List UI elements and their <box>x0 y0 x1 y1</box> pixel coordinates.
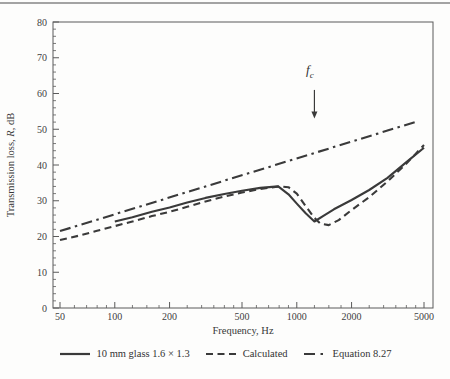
svg-text:60: 60 <box>37 88 47 99</box>
svg-text:500: 500 <box>235 311 250 322</box>
solid-line-swatch-icon <box>59 349 91 359</box>
transmission-loss-figure: 5010020050010002000500001020304050607080… <box>0 0 450 379</box>
legend-label-calculated: Calculated <box>243 348 288 359</box>
legend-item-equation: Equation 8.27 <box>303 348 392 359</box>
fc-subscript: c <box>310 70 314 80</box>
svg-text:100: 100 <box>107 311 122 322</box>
svg-text:10: 10 <box>37 267 47 278</box>
critical-frequency-label: fc <box>306 63 314 80</box>
svg-text:5000: 5000 <box>414 311 434 322</box>
svg-text:0: 0 <box>42 303 47 314</box>
svg-text:Transmission loss, R, dB: Transmission loss, R, dB <box>5 113 16 217</box>
svg-text:20: 20 <box>37 231 47 242</box>
dashed-line-swatch-icon <box>205 349 237 359</box>
svg-text:50: 50 <box>55 311 65 322</box>
svg-text:50: 50 <box>37 124 47 135</box>
legend-item-calculated: Calculated <box>205 348 288 359</box>
svg-text:80: 80 <box>37 17 47 28</box>
svg-text:1000: 1000 <box>287 311 307 322</box>
svg-text:Frequency, Hz: Frequency, Hz <box>212 325 273 336</box>
dashdot-line-swatch-icon <box>303 349 327 359</box>
svg-text:30: 30 <box>37 195 47 206</box>
legend-label-equation: Equation 8.27 <box>333 348 392 359</box>
svg-text:2000: 2000 <box>342 311 362 322</box>
svg-text:40: 40 <box>37 160 47 171</box>
chart-legend: 10 mm glass 1.6 × 1.3 Calculated Equatio… <box>0 348 450 359</box>
chart-canvas: 5010020050010002000500001020304050607080… <box>0 0 450 379</box>
legend-item-measured: 10 mm glass 1.6 × 1.3 <box>59 348 190 359</box>
legend-label-measured: 10 mm glass 1.6 × 1.3 <box>97 348 190 359</box>
svg-text:70: 70 <box>37 52 47 63</box>
svg-text:200: 200 <box>162 311 177 322</box>
